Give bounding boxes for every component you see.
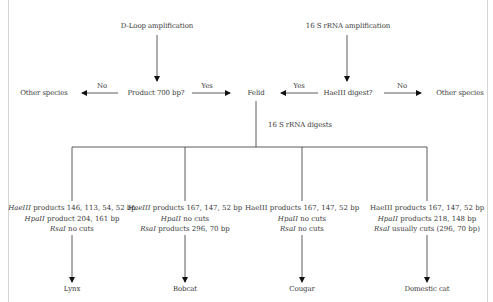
result-bobcat: Bobcat bbox=[173, 286, 197, 293]
digest-line: RsaI no cuts bbox=[8, 224, 136, 235]
digest-line: HaeIII products 167, 147, 52 bp bbox=[370, 203, 484, 214]
digest-line: HaeIII products 167, 147, 52 bp bbox=[245, 203, 359, 214]
branch-1-digest-results: HaeIII products 146, 113, 54, 52 bp HpaI… bbox=[8, 203, 136, 235]
node-dloop-amplification: D-Loop amplification bbox=[121, 23, 193, 30]
result-lynx: Lynx bbox=[64, 286, 81, 293]
enzyme-name: HaeIII bbox=[370, 204, 393, 212]
digest-line: RsaI no cuts bbox=[245, 224, 359, 235]
digest-text: products 296, 70 bp bbox=[156, 225, 230, 233]
node-felid: Felid bbox=[247, 90, 264, 97]
node-other-species-left: Other species bbox=[20, 90, 68, 97]
digest-text: no cuts bbox=[181, 215, 209, 223]
digest-text: product 204, 161 bp bbox=[45, 215, 120, 223]
branch-4-digest-results: HaeIII products 167, 147, 52 bp HpaII pr… bbox=[370, 203, 484, 235]
enzyme-name: HpaII bbox=[278, 215, 298, 223]
digest-line: HpaII product 204, 161 bp bbox=[8, 214, 136, 225]
result-cougar: Cougar bbox=[289, 286, 314, 293]
result-domestic-cat: Domestic cat bbox=[404, 286, 449, 293]
digest-text: no cuts bbox=[298, 215, 326, 223]
enzyme-name: HaeIII bbox=[8, 204, 31, 212]
enzyme-name: HpaII bbox=[25, 215, 45, 223]
digest-line: HpaII no cuts bbox=[245, 214, 359, 225]
enzyme-name: HpaII bbox=[161, 215, 181, 223]
digest-text: no cuts bbox=[296, 225, 324, 233]
enzyme-name: RsaI bbox=[140, 225, 156, 233]
edge-label-yes-left: Yes bbox=[201, 83, 212, 90]
edge-label-16s-digests: 16 S rRNA digests bbox=[268, 122, 332, 129]
digest-line: HaeIII products 167, 147, 52 bp bbox=[128, 203, 242, 214]
node-other-species-right: Other species bbox=[436, 90, 484, 97]
node-16s-rrna-amplification: 16 S rRNA amplification bbox=[306, 23, 390, 30]
edge-label-no-right: No bbox=[397, 83, 407, 90]
digest-text: usually cuts (296, 70 bp) bbox=[390, 225, 480, 233]
digest-text: products 167, 147, 52 bp bbox=[151, 204, 243, 212]
digest-line: RsaI products 296, 70 bp bbox=[128, 224, 242, 235]
enzyme-name: RsaI bbox=[280, 225, 296, 233]
digest-text: products 218, 148 bp bbox=[398, 215, 476, 223]
enzyme-name: HpaII bbox=[378, 215, 398, 223]
edge-label-yes-right: Yes bbox=[293, 83, 304, 90]
digest-text: products 146, 113, 54, 52 bp bbox=[31, 204, 136, 212]
enzyme-name: RsaI bbox=[50, 225, 66, 233]
digest-line: HpaII no cuts bbox=[128, 214, 242, 225]
enzyme-name: HaeIII bbox=[245, 204, 268, 212]
node-haeiii-digest: HaeIII digest? bbox=[323, 90, 372, 97]
digest-line: HaeIII products 146, 113, 54, 52 bp bbox=[8, 203, 136, 214]
enzyme-name: HaeIII bbox=[128, 204, 151, 212]
digest-text: products 167, 147, 52 bp bbox=[393, 204, 485, 212]
node-product-700bp: Product 700 bp? bbox=[127, 90, 184, 97]
digest-text: products 167, 147, 52 bp bbox=[268, 204, 360, 212]
digest-text: no cuts bbox=[66, 225, 94, 233]
flowchart-connectors bbox=[0, 0, 493, 302]
enzyme-name: RsaI bbox=[374, 225, 390, 233]
edge-label-no-left: No bbox=[97, 83, 107, 90]
branch-2-digest-results: HaeIII products 167, 147, 52 bp HpaII no… bbox=[128, 203, 242, 235]
branch-3-digest-results: HaeIII products 167, 147, 52 bp HpaII no… bbox=[245, 203, 359, 235]
digest-line: HpaII products 218, 148 bp bbox=[370, 214, 484, 225]
digest-line: RsaI usually cuts (296, 70 bp) bbox=[370, 224, 484, 235]
